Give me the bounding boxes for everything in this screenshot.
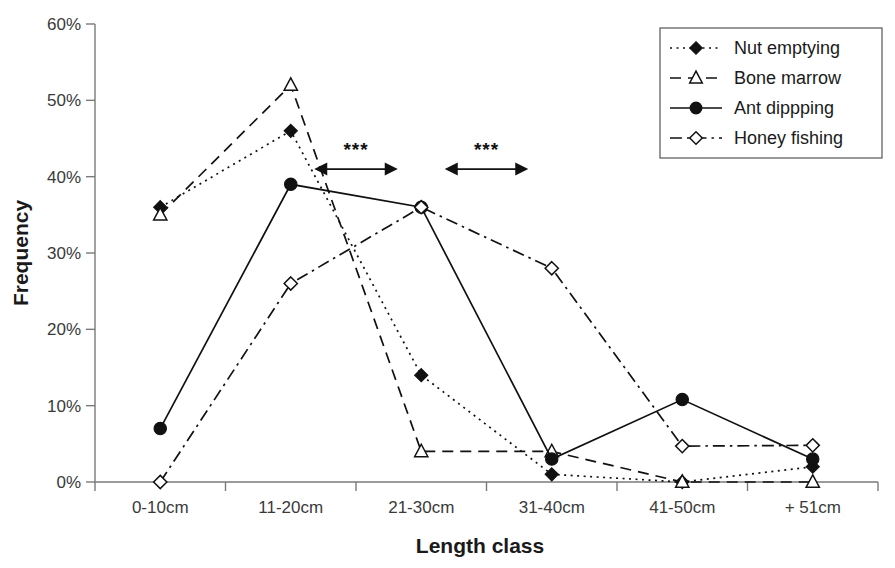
x-tick-label: 41-50cm (649, 498, 715, 517)
significance-marker: *** (445, 139, 529, 176)
legend-label: Honey fishing (734, 128, 843, 148)
marker-filled-circle (807, 453, 819, 465)
arrow-head-right (515, 163, 528, 176)
x-tick-label: 31-40cm (519, 498, 585, 517)
chart-legend: Nut emptyingBone marrowAnt dipppingHoney… (660, 28, 882, 158)
arrow-head-left (445, 163, 458, 176)
y-tick-label: 50% (47, 91, 81, 110)
significance-marker: *** (314, 139, 398, 176)
series-polyline (160, 207, 813, 482)
marker-filled-circle (285, 178, 297, 190)
marker-open-diamond (806, 439, 819, 452)
marker-open-triangle (806, 475, 819, 487)
arrow-head-right (385, 163, 398, 176)
marker-open-diamond (284, 277, 297, 290)
y-tick-label: 40% (47, 168, 81, 187)
chart-canvas: 0%10%20%30%40%50%60% 0-10cm11-20cm21-30c… (0, 0, 895, 568)
marker-filled-diamond (284, 124, 297, 137)
arrow-head-left (314, 163, 327, 176)
y-tick-label: 60% (47, 15, 81, 34)
marker-open-diamond (676, 440, 689, 453)
x-tick-label: 11-20cm (258, 498, 323, 517)
legend-item-honey-fishing[interactable]: Honey fishing (670, 128, 843, 148)
marker-filled-diamond (415, 369, 428, 382)
significance-stars: *** (474, 139, 499, 160)
series-nut-emptying (154, 124, 820, 488)
y-tick-label: 0% (56, 473, 81, 492)
frequency-by-length-class-chart: 0%10%20%30%40%50%60% 0-10cm11-20cm21-30c… (0, 0, 895, 568)
y-axis-title: Frequency (9, 200, 32, 307)
y-tick-label: 10% (47, 397, 81, 416)
y-tick-label: 20% (47, 320, 81, 339)
marker-filled-circle (546, 453, 558, 465)
x-axis: 0-10cm11-20cm21-30cm31-40cm41-50cm+ 51cm (95, 482, 878, 517)
series-polyline (160, 131, 813, 482)
marker-open-diamond (154, 475, 167, 488)
series-polyline (160, 184, 813, 459)
significance-annotations: ****** (314, 139, 528, 176)
marker-open-diamond (545, 262, 558, 275)
marker-open-triangle (284, 78, 297, 90)
legend-label: Nut emptying (734, 38, 840, 58)
significance-stars: *** (343, 139, 368, 160)
marker-filled-circle (676, 393, 688, 405)
y-axis: 0%10%20%30%40%50%60% (47, 15, 95, 492)
marker-open-triangle (415, 444, 428, 456)
marker-filled-diamond (545, 468, 558, 481)
marker-filled-circle (690, 102, 702, 114)
x-axis-title: Length class (416, 534, 544, 557)
x-tick-label: 0-10cm (132, 498, 189, 517)
legend-label: Ant dippping (734, 98, 834, 118)
series-honey-fishing (154, 201, 820, 489)
x-tick-label: + 51cm (785, 498, 841, 517)
x-tick-label: 21-30cm (388, 498, 454, 517)
marker-filled-circle (154, 422, 166, 434)
legend-label: Bone marrow (734, 68, 842, 88)
series-ant-dippping (154, 178, 819, 465)
y-tick-label: 30% (47, 244, 81, 263)
